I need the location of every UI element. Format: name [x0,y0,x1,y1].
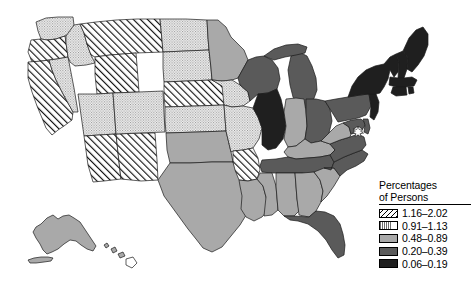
legend-swatch-stipple [379,221,398,230]
state-arizona [84,134,121,182]
legend-label: 1.16–2.02 [402,207,447,219]
state-connecticut [391,87,407,96]
state-arkansas [233,148,260,181]
state-montana [80,19,163,57]
state-massachusetts [389,77,417,87]
legend-swatch-hatch [379,209,398,218]
legend-label: 0.48–0.89 [402,232,447,244]
states-layer [28,17,428,268]
legend-title-line2: of Persons [379,192,471,204]
state-oklahoma [166,131,233,163]
state-nebraska [164,80,226,107]
state-newyork [348,64,390,97]
legend-swatch-gray-dark [379,247,398,256]
state-florida [284,211,345,258]
state-northdakota [160,19,209,52]
legend-item: 0.20–0.39 [379,245,471,258]
state-wyoming [95,53,139,94]
legend-item: 1.16–2.02 [379,207,471,220]
state-texas [158,162,248,252]
legend-title-line1: Percentages [379,180,471,192]
legend-swatch-gray-light [379,234,398,243]
legend-label: 0.06–0.19 [402,258,447,270]
state-utah [78,93,116,136]
legend-item: 0.91–1.13 [379,220,471,233]
state-rhodeisland [408,87,414,94]
state-alaska-aleutians [28,257,53,263]
state-newmexico [116,133,158,181]
legend-item: 0.48–0.89 [379,232,471,245]
state-southdakota [163,50,212,82]
state-kansas [165,105,226,133]
legend-label: 0.91–1.13 [402,220,447,232]
choropleth-figure: Percentages of Persons 1.16–2.02 0.91–1.… [0,0,472,291]
state-hawaii [104,243,137,268]
legend-divider [379,204,471,205]
state-alaska [33,215,96,254]
legend: Percentages of Persons 1.16–2.02 0.91–1.… [379,180,471,270]
state-colorado [113,91,165,134]
state-indiana [284,98,307,147]
legend-label: 0.20–0.39 [402,245,447,257]
legend-swatch-black [379,259,398,268]
state-pennsylvania [325,94,371,122]
legend-item: 0.06–0.19 [379,257,471,270]
